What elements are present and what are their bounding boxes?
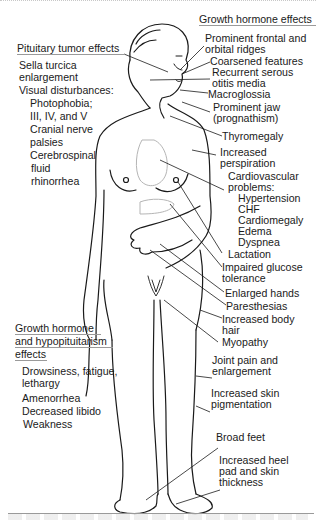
right-foot	[168, 494, 212, 514]
caption-cutoff	[8, 514, 308, 520]
effect-label: Thyromegaly	[222, 131, 283, 142]
effect-label: enlargement	[212, 366, 271, 377]
effect-label: Photophobia;	[30, 98, 92, 109]
effect-label: perspiration	[220, 158, 275, 169]
effect-label: III, IV, and V	[30, 111, 87, 122]
right-leg-inner	[160, 300, 168, 494]
effect-label: fluid	[31, 163, 50, 174]
pancreas-organ	[140, 199, 174, 214]
effect-label: Enlarged hands	[225, 288, 299, 299]
growth-hormone-header: Growth hormone effects	[199, 13, 316, 26]
effect-label: tolerance	[222, 273, 266, 284]
effect-label: palsies	[30, 137, 63, 148]
heart-organ	[136, 140, 167, 186]
effect-label: (prognathism)	[213, 113, 278, 124]
effect-label: rhinorrhea	[31, 176, 79, 187]
effect-label: hair	[222, 325, 240, 336]
pituitary-tumor-header: Pituitary tumor effects	[17, 42, 125, 55]
effect-label: Cerebrospinal	[30, 150, 96, 161]
head-outline	[130, 24, 188, 118]
effect-label: Dyspnea	[238, 237, 280, 248]
right-hip	[196, 250, 203, 330]
effect-label: Drowsiness, fatigue,	[22, 366, 117, 377]
effect-label: Weakness	[23, 419, 72, 430]
left-foot	[115, 494, 158, 514]
effect-label: Sella turcica	[19, 60, 77, 71]
effect-label: Cranial nerve	[30, 124, 93, 135]
right-leg-outer	[191, 330, 196, 494]
header-line: Growth hormone	[15, 322, 101, 335]
left-leg-inner	[153, 300, 158, 494]
left-leg-outer	[112, 340, 123, 500]
effect-label: Paresthesias	[226, 301, 287, 312]
hand-across	[131, 206, 200, 254]
left-arm-inner	[96, 190, 104, 340]
effect-label: Visual disturbances:	[19, 85, 114, 96]
effect-label: Decreased libido	[22, 406, 101, 417]
effect-label: orbital ridges	[205, 44, 266, 55]
breast-right	[156, 174, 188, 192]
right-shoulder-arm	[166, 104, 211, 268]
effect-label: pigmentation	[211, 399, 272, 410]
effect-label: lethargy	[22, 378, 60, 389]
effect-label: Myopathy	[222, 337, 268, 348]
effect-label: thickness	[219, 477, 263, 488]
effect-label: Lactation	[228, 249, 271, 260]
header-line: effects	[15, 348, 47, 361]
effect-label: Broad feet	[216, 432, 265, 443]
effect-label: Amenorrhea	[22, 393, 80, 404]
header-line: and hypopituitarism	[15, 335, 113, 348]
effect-label: Macroglossia	[208, 89, 270, 100]
left-hip	[104, 280, 112, 340]
effect-label: enlargement	[19, 72, 78, 83]
